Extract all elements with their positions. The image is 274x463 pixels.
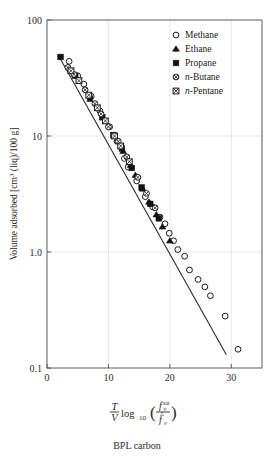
- legend-item-butane: n-Butane: [173, 72, 220, 82]
- data-point: [68, 68, 74, 74]
- data-point: [98, 111, 104, 117]
- y-tick-label: 10: [32, 131, 42, 142]
- data-point: [187, 267, 193, 273]
- data-point: [208, 293, 214, 299]
- data-point: [129, 165, 135, 171]
- data-point: [106, 124, 112, 130]
- plot-frame: [47, 20, 262, 368]
- paren-close: ): [171, 403, 177, 422]
- legend-item-propane: Propane: [173, 58, 216, 68]
- data-point: [152, 205, 158, 211]
- data-points: [58, 54, 241, 352]
- data-point: [112, 133, 118, 139]
- data-point: [86, 92, 92, 98]
- formula-log: log: [121, 408, 135, 419]
- x-axis-ticklabels: 0102030: [45, 364, 237, 383]
- y-tick-label: 0.1: [30, 363, 43, 374]
- svg-text:Volume adsorbed [cm3 (liq)/100: Volume adsorbed [cm3 (liq)/100 g]: [8, 128, 20, 261]
- data-point: [139, 185, 145, 191]
- figure-caption: BPL carbon: [113, 440, 161, 451]
- y-axis-label-tail: (liq)/100 g]: [9, 128, 20, 174]
- paren-open: (: [150, 403, 156, 422]
- x-axis-label-formula: T V log 10 ( f v sat f ^ v ): [110, 400, 177, 427]
- data-point: [76, 78, 82, 84]
- x-tick-label: 20: [165, 372, 175, 383]
- legend-label: n-Butane: [185, 72, 220, 82]
- data-point: [202, 284, 208, 290]
- legend-label: n-Pentane: [185, 86, 223, 96]
- scatter-chart: 0.11.010100 0102030 Volume adsorbed [cm3…: [0, 0, 274, 463]
- data-point: [156, 216, 162, 222]
- legend-label: Ethane: [185, 44, 211, 54]
- legend-item-ethane: Ethane: [173, 44, 212, 54]
- y-axis-label: Volume adsorbed [cm3 (liq)/100 g]: [8, 128, 20, 261]
- data-point: [235, 346, 241, 352]
- legend-marker-crossed-circle: [173, 74, 179, 80]
- legend-marker-solid-square: [173, 60, 179, 66]
- x-tick-label: 0: [45, 372, 50, 383]
- formula-fsat-sub: v: [164, 406, 167, 412]
- data-point: [118, 143, 124, 149]
- data-point: [66, 58, 72, 64]
- legend: MethaneEthanePropanen-Butanen-Pentane: [173, 30, 223, 96]
- legend-marker-solid-triangle: [173, 46, 180, 51]
- data-point: [126, 159, 132, 165]
- y-tick-label: 1.0: [30, 247, 43, 258]
- legend-item-methane: Methane: [173, 30, 218, 40]
- figure-container: 0.11.010100 0102030 Volume adsorbed [cm3…: [0, 0, 274, 463]
- fit-line: [59, 57, 226, 355]
- data-point: [144, 191, 150, 197]
- data-point: [166, 230, 172, 236]
- data-point: [182, 253, 188, 259]
- data-point: [94, 105, 100, 111]
- legend-marker-open-circle: [173, 32, 179, 38]
- formula-hat-accent: ^: [160, 411, 164, 420]
- y-axis-label-main: Volume adsorbed [cm: [9, 177, 19, 261]
- data-point: [102, 118, 108, 124]
- correlation-line: [59, 57, 226, 355]
- formula-V: V: [111, 412, 119, 423]
- data-point: [175, 247, 181, 253]
- grid-lines: [47, 20, 262, 368]
- y-tick-label: 100: [27, 15, 42, 26]
- x-tick-label: 10: [103, 372, 113, 383]
- legend-marker-crossed-square: [173, 88, 179, 94]
- data-point: [195, 277, 201, 283]
- data-point: [135, 174, 141, 180]
- formula-fsat-sup: sat: [163, 400, 170, 406]
- formula-T: T: [112, 401, 119, 412]
- legend-label: Methane: [185, 30, 218, 40]
- data-point: [147, 201, 153, 207]
- formula-fhat-sub: v: [164, 420, 167, 426]
- x-tick-label: 30: [226, 372, 236, 383]
- data-point: [222, 313, 228, 319]
- legend-label: Propane: [185, 58, 216, 68]
- formula-log-subscript: 10: [139, 414, 147, 422]
- legend-item-pentane: n-Pentane: [173, 86, 223, 96]
- data-point: [58, 54, 64, 60]
